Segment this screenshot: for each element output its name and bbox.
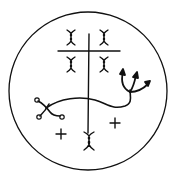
- sigil-figure: [0, 0, 177, 180]
- vertical-staff: [88, 34, 89, 133]
- sigil-drawing: [0, 0, 177, 180]
- x-glyph-top-left: [67, 30, 75, 45]
- x-glyph-top-right: [100, 30, 108, 45]
- loop-top-left: [35, 98, 39, 102]
- x-glyph-bottom: [84, 132, 94, 150]
- x-glyph-mid-right: [100, 57, 108, 72]
- trident: [120, 69, 150, 92]
- cross-left: [56, 129, 66, 139]
- cross-right: [110, 118, 120, 128]
- loop-bottom-right: [60, 115, 64, 119]
- loop-bottom-left: [37, 115, 41, 119]
- x-glyph-mid-left: [67, 57, 75, 72]
